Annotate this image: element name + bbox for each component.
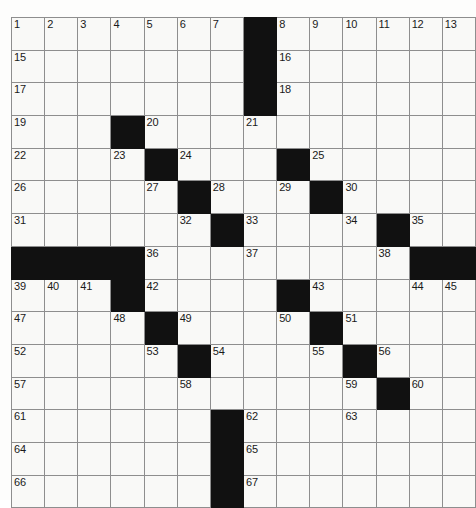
crossword-cell[interactable]: [144, 83, 177, 116]
crossword-cell[interactable]: 20: [144, 116, 177, 149]
crossword-cell[interactable]: 37: [243, 246, 276, 279]
crossword-cell[interactable]: 12: [409, 18, 442, 51]
crossword-cell[interactable]: [210, 116, 243, 149]
crossword-cell[interactable]: 16: [277, 50, 310, 83]
crossword-cell[interactable]: [376, 410, 409, 443]
crossword-cell[interactable]: [409, 442, 442, 475]
crossword-cell[interactable]: [177, 83, 210, 116]
crossword-cell[interactable]: 2: [45, 18, 78, 51]
crossword-cell[interactable]: [442, 344, 475, 377]
crossword-cell[interactable]: [277, 442, 310, 475]
crossword-cell[interactable]: [144, 377, 177, 410]
crossword-cell[interactable]: [177, 442, 210, 475]
crossword-cell[interactable]: [45, 475, 78, 508]
crossword-cell[interactable]: 52: [12, 344, 45, 377]
crossword-cell[interactable]: [177, 279, 210, 312]
crossword-cell[interactable]: [243, 279, 276, 312]
crossword-cell[interactable]: [45, 377, 78, 410]
crossword-cell[interactable]: [78, 83, 111, 116]
crossword-cell[interactable]: [376, 116, 409, 149]
crossword-cell[interactable]: 53: [144, 344, 177, 377]
crossword-cell[interactable]: 13: [442, 18, 475, 51]
crossword-cell[interactable]: [376, 148, 409, 181]
crossword-cell[interactable]: [376, 475, 409, 508]
crossword-cell[interactable]: [376, 312, 409, 345]
crossword-cell[interactable]: 49: [177, 312, 210, 345]
crossword-cell[interactable]: [78, 442, 111, 475]
crossword-cell[interactable]: 10: [343, 18, 376, 51]
crossword-cell[interactable]: 67: [243, 475, 276, 508]
crossword-cell[interactable]: 33: [243, 214, 276, 247]
crossword-cell[interactable]: 3: [78, 18, 111, 51]
crossword-cell[interactable]: [210, 312, 243, 345]
crossword-cell[interactable]: [277, 475, 310, 508]
crossword-cell[interactable]: [409, 410, 442, 443]
crossword-cell[interactable]: [78, 344, 111, 377]
crossword-cell[interactable]: [310, 442, 343, 475]
crossword-cell[interactable]: 60: [409, 377, 442, 410]
crossword-cell[interactable]: [177, 116, 210, 149]
crossword-cell[interactable]: [78, 410, 111, 443]
crossword-cell[interactable]: 1: [12, 18, 45, 51]
crossword-cell[interactable]: 41: [78, 279, 111, 312]
crossword-cell[interactable]: 45: [442, 279, 475, 312]
crossword-cell[interactable]: [409, 475, 442, 508]
crossword-cell[interactable]: 40: [45, 279, 78, 312]
crossword-cell[interactable]: 23: [111, 148, 144, 181]
crossword-cell[interactable]: [111, 475, 144, 508]
crossword-cell[interactable]: [111, 377, 144, 410]
crossword-cell[interactable]: 6: [177, 18, 210, 51]
crossword-cell[interactable]: 28: [210, 181, 243, 214]
crossword-cell[interactable]: [310, 246, 343, 279]
crossword-cell[interactable]: [310, 410, 343, 443]
crossword-cell[interactable]: 57: [12, 377, 45, 410]
crossword-cell[interactable]: [111, 181, 144, 214]
crossword-cell[interactable]: [343, 116, 376, 149]
crossword-cell[interactable]: 5: [144, 18, 177, 51]
crossword-cell[interactable]: [111, 214, 144, 247]
crossword-cell[interactable]: [277, 214, 310, 247]
crossword-cell[interactable]: [210, 50, 243, 83]
crossword-cell[interactable]: [78, 475, 111, 508]
crossword-cell[interactable]: [376, 83, 409, 116]
crossword-cell[interactable]: [442, 148, 475, 181]
crossword-cell[interactable]: [177, 410, 210, 443]
crossword-cell[interactable]: [45, 410, 78, 443]
crossword-cell[interactable]: 59: [343, 377, 376, 410]
crossword-cell[interactable]: [376, 279, 409, 312]
crossword-cell[interactable]: [45, 148, 78, 181]
crossword-cell[interactable]: [442, 50, 475, 83]
crossword-cell[interactable]: [343, 279, 376, 312]
crossword-cell[interactable]: [343, 246, 376, 279]
crossword-cell[interactable]: [243, 344, 276, 377]
crossword-cell[interactable]: [177, 50, 210, 83]
crossword-cell[interactable]: [277, 377, 310, 410]
crossword-cell[interactable]: 9: [310, 18, 343, 51]
crossword-cell[interactable]: [409, 344, 442, 377]
crossword-cell[interactable]: [45, 344, 78, 377]
crossword-cell[interactable]: [144, 475, 177, 508]
crossword-cell[interactable]: [45, 50, 78, 83]
crossword-cell[interactable]: 27: [144, 181, 177, 214]
crossword-cell[interactable]: [409, 181, 442, 214]
crossword-cell[interactable]: 38: [376, 246, 409, 279]
crossword-cell[interactable]: [442, 377, 475, 410]
crossword-cell[interactable]: 36: [144, 246, 177, 279]
crossword-cell[interactable]: [277, 410, 310, 443]
crossword-cell[interactable]: 39: [12, 279, 45, 312]
crossword-cell[interactable]: 18: [277, 83, 310, 116]
crossword-cell[interactable]: 66: [12, 475, 45, 508]
crossword-cell[interactable]: [442, 116, 475, 149]
crossword-cell[interactable]: 4: [111, 18, 144, 51]
crossword-cell[interactable]: [343, 83, 376, 116]
crossword-cell[interactable]: [78, 312, 111, 345]
crossword-cell[interactable]: [78, 148, 111, 181]
crossword-cell[interactable]: [78, 116, 111, 149]
crossword-cell[interactable]: [277, 116, 310, 149]
crossword-cell[interactable]: [45, 116, 78, 149]
crossword-cell[interactable]: [78, 50, 111, 83]
crossword-cell[interactable]: [442, 83, 475, 116]
crossword-cell[interactable]: [144, 50, 177, 83]
crossword-cell[interactable]: 7: [210, 18, 243, 51]
crossword-grid-container[interactable]: 1234567891011121315161718192021222324252…: [11, 17, 476, 508]
